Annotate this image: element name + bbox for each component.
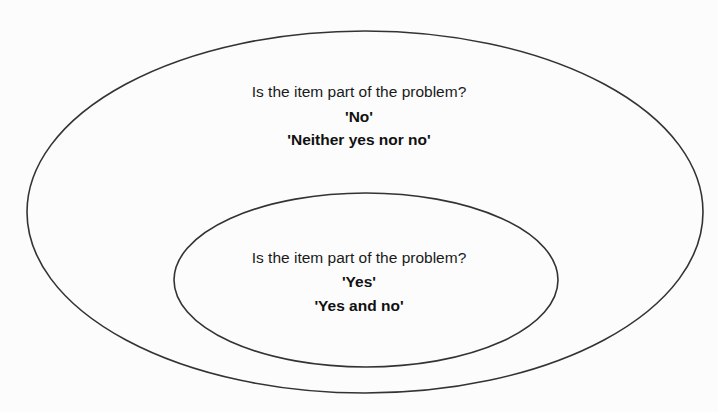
inner-set-answer-yes: 'Yes' [0, 273, 718, 291]
inner-set-question: Is the item part of the problem? [0, 249, 718, 267]
outer-set-answer-neither: 'Neither yes nor no' [0, 131, 718, 149]
outer-set-question: Is the item part of the problem? [0, 83, 718, 101]
nested-sets-diagram [0, 0, 718, 412]
inner-set-answer-yes-and-no: 'Yes and no' [0, 297, 718, 315]
outer-set-answer-no: 'No' [0, 108, 718, 126]
